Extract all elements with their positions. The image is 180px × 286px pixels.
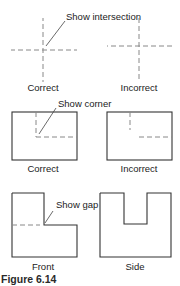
label-front: Front	[32, 261, 55, 272]
row1-correct-cross	[11, 18, 77, 82]
note-show-gap: Show gap	[56, 199, 98, 210]
label-side: Side	[125, 261, 144, 272]
label-incorrect-1: Incorrect	[121, 82, 158, 93]
label-correct-2: Correct	[27, 163, 59, 174]
leader-line	[45, 211, 53, 223]
figure-caption: Figure 6.14	[1, 273, 57, 285]
label-correct-1: Correct	[27, 82, 59, 93]
row2-correct-box	[12, 108, 77, 160]
leader-line	[46, 21, 65, 46]
row3-side-view	[100, 193, 171, 257]
label-incorrect-2: Incorrect	[121, 163, 158, 174]
note-show-corner: Show corner	[58, 98, 111, 109]
note-show-intersection: Show intersection	[66, 11, 141, 22]
row1-incorrect-cross	[107, 18, 172, 82]
row2-incorrect-box	[107, 112, 172, 160]
hidden-line-conventions-figure: Show intersection Correct Incorrect Show…	[0, 0, 180, 286]
